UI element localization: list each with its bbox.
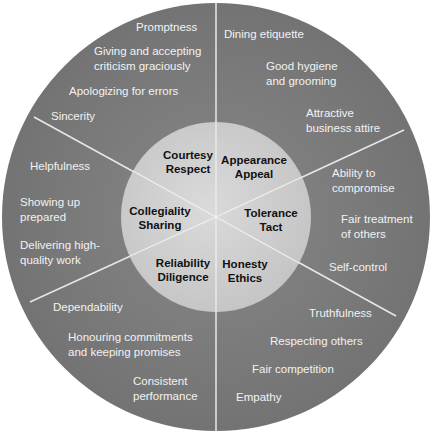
core-label-line: Tolerance <box>236 206 306 220</box>
core-label-line: Tact <box>236 220 306 234</box>
item-showing-up: Showing upprepared <box>20 195 80 224</box>
item-fair-treatment: Fair treatmentof others <box>341 212 413 241</box>
item-empathy: Empathy <box>236 390 281 405</box>
core-label-line: Diligence <box>143 270 223 284</box>
item-respecting-others: Respecting others <box>270 334 363 349</box>
item-compromise: Ability tocompromise <box>332 166 395 195</box>
item-self-control: Self-control <box>329 260 387 275</box>
core-collegiality-sharing: Collegiality Sharing <box>122 204 198 232</box>
core-label-line: Appearance <box>214 153 294 167</box>
core-label-line: Sharing <box>122 218 198 232</box>
core-label-line: Collegiality <box>122 204 198 218</box>
item-attire: Attractivebusiness attire <box>306 106 380 135</box>
item-sincerity: Sincerity <box>51 109 95 124</box>
item-hygiene: Good hygieneand grooming <box>266 59 338 88</box>
item-apologizing: Apologizing for errors <box>69 84 178 99</box>
core-appearance-appeal: Appearance Appeal <box>214 153 294 181</box>
item-truthfulness: Truthfulness <box>309 306 372 321</box>
item-promptness: Promptness <box>136 20 197 35</box>
item-dependability: Dependability <box>53 300 123 315</box>
item-dining-etiquette: Dining etiquette <box>224 27 304 42</box>
item-honouring: Honouring commitmentsand keeping promise… <box>68 330 193 359</box>
item-criticism: Giving and acceptingcriticism graciously <box>94 44 201 73</box>
core-label-line: Appeal <box>214 167 294 181</box>
item-consistent: Consistentperformance <box>133 374 198 403</box>
core-label-line: Reliability <box>143 256 223 270</box>
item-helpfulness: Helpfulness <box>30 159 90 174</box>
core-reliability-diligence: Reliability Diligence <box>143 256 223 284</box>
item-fair-competition: Fair competition <box>252 362 334 377</box>
item-delivering: Delivering high-quality work <box>20 238 100 267</box>
core-tolerance-tact: Tolerance Tact <box>236 206 306 234</box>
